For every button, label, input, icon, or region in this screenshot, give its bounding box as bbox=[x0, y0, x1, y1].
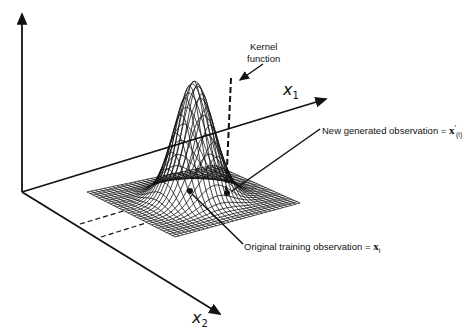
x2-subscript: 2 bbox=[201, 318, 207, 329]
new-observation-label: New generated observation = x′(i) bbox=[322, 122, 462, 141]
kernel-label-line1: Kernel bbox=[247, 41, 280, 53]
original-observation-index: i bbox=[379, 247, 381, 254]
kernel-diagram: Kernel function x1 x2 New generated obse… bbox=[0, 0, 473, 336]
diagram-canvas bbox=[0, 0, 473, 336]
kernel-pointer bbox=[240, 64, 263, 80]
new-observation-text: New generated observation = bbox=[322, 125, 449, 136]
original-observation-text: Original training observation = bbox=[244, 241, 373, 252]
new-observation-pointer bbox=[232, 129, 320, 191]
kernel-label: Kernel function bbox=[247, 41, 280, 65]
x2-axis-label: x2 bbox=[192, 308, 208, 329]
kernel-label-line2: function bbox=[247, 53, 280, 65]
original-observation-label: Original training observation = xi bbox=[244, 240, 380, 257]
x1-subscript: 1 bbox=[292, 90, 298, 101]
x1-axis-label: x1 bbox=[283, 80, 299, 101]
original-observation-point bbox=[187, 188, 193, 194]
new-observation-point bbox=[224, 190, 230, 196]
new-observation-index: (i) bbox=[456, 131, 462, 138]
kernel-surface-mesh bbox=[87, 81, 300, 237]
